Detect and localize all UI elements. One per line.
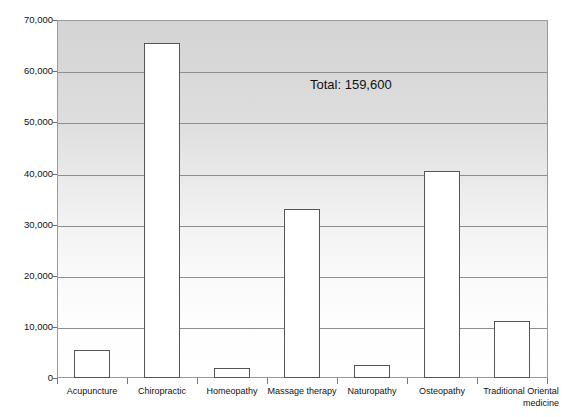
y-tick-label-10000: 10,000	[3, 322, 53, 332]
x-label-massage-therapy-text: Massage therapy	[267, 386, 336, 396]
x-tick-1	[127, 378, 128, 384]
x-label-chiropractic-text: Chiropractic	[138, 386, 186, 396]
x-label-acupuncture-text: Acupuncture	[67, 386, 118, 396]
x-tick-6	[477, 378, 478, 384]
x-tick-5	[407, 378, 408, 384]
x-label-osteopathy-text: Osteopathy	[419, 386, 465, 396]
y-tick-label-50000: 50,000	[3, 117, 53, 127]
y-tick-mark-70000	[52, 20, 57, 21]
x-label-acupuncture: Acupuncture	[57, 386, 127, 398]
bar-massage-therapy[interactable]	[284, 209, 320, 378]
x-label-traditional-oriental-medicine-line2: medicine	[477, 398, 565, 410]
x-tick-2	[197, 378, 198, 384]
y-tick-label-60000: 60,000	[3, 66, 53, 76]
x-label-homeopathy-text: Homeopathy	[206, 386, 257, 396]
x-tick-0	[57, 378, 58, 384]
y-tick-mark-60000	[52, 71, 57, 72]
y-tick-label-70000: 70,000	[3, 15, 53, 25]
y-tick-label-30000: 30,000	[3, 220, 53, 230]
y-tick-mark-30000	[52, 225, 57, 226]
x-label-naturopathy: Naturopathy	[337, 386, 407, 398]
x-axis: Acupuncture Chiropractic Homeopathy Mass…	[57, 386, 548, 417]
bar-traditional-oriental-medicine[interactable]	[494, 321, 530, 378]
x-tick-3	[267, 378, 268, 384]
x-tick-4	[337, 378, 338, 384]
x-label-traditional-oriental-medicine: Traditional Oriental medicine	[477, 386, 565, 409]
x-label-naturopathy-text: Naturopathy	[347, 386, 396, 396]
y-tick-mark-50000	[52, 122, 57, 123]
bar-chiropractic[interactable]	[144, 43, 180, 378]
x-label-chiropractic: Chiropractic	[127, 386, 197, 398]
x-label-osteopathy: Osteopathy	[407, 386, 477, 398]
bar-osteopathy[interactable]	[424, 171, 460, 378]
bars-layer	[57, 20, 548, 378]
bar-homeopathy[interactable]	[214, 368, 250, 378]
y-axis: 70,000 60,000 50,000 40,000 30,000 20,00…	[0, 0, 53, 417]
x-label-homeopathy: Homeopathy	[197, 386, 267, 398]
bar-acupuncture[interactable]	[74, 350, 110, 378]
y-tick-label-40000: 40,000	[3, 169, 53, 179]
total-annotation: Total: 159,600	[310, 77, 392, 93]
bar-naturopathy[interactable]	[354, 365, 390, 378]
y-tick-label-0: 0	[3, 373, 53, 383]
y-tick-mark-10000	[52, 327, 57, 328]
y-tick-mark-20000	[52, 276, 57, 277]
y-tick-label-20000: 20,000	[3, 271, 53, 281]
y-tick-mark-40000	[52, 174, 57, 175]
bar-chart: 70,000 60,000 50,000 40,000 30,000 20,00…	[0, 0, 583, 417]
x-label-traditional-oriental-medicine-line1: Traditional Oriental	[477, 386, 565, 398]
x-label-massage-therapy: Massage therapy	[267, 386, 337, 398]
x-tick-7	[547, 378, 548, 384]
